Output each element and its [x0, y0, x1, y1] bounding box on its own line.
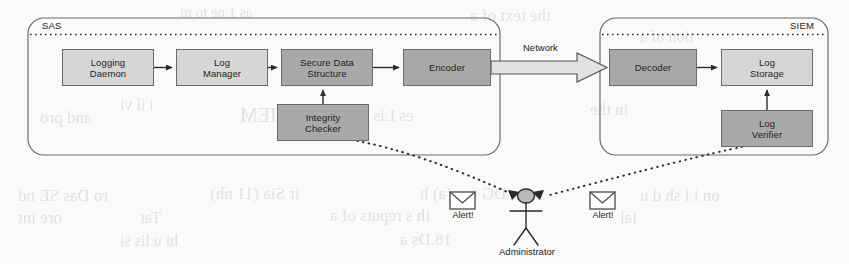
node-decoder-label: Decoder	[633, 62, 674, 73]
administrator-head	[518, 189, 535, 203]
node-log-verifier-label: LogVerifier	[750, 118, 784, 140]
diagram-page: the text of aas 1 ne to nition of ai il …	[0, 0, 849, 264]
node-logging-daemon[interactable]: LoggingDaemon	[62, 49, 154, 86]
node-log-storage-label: LogStorage	[748, 57, 786, 79]
node-integrity-checker[interactable]: IntegrityChecker	[277, 104, 369, 141]
node-decoder[interactable]: Decoder	[609, 49, 697, 86]
node-log-storage[interactable]: LogStorage	[721, 49, 813, 86]
node-encoder-label: Encoder	[427, 62, 467, 73]
zone-label-siem: SIEM	[790, 20, 814, 31]
node-secure-data-structure-label: Secure DataStructure	[298, 57, 356, 79]
node-secure-data-structure[interactable]: Secure DataStructure	[281, 49, 373, 86]
alert-label-left: Alert!	[443, 210, 483, 220]
edge-log-verifier-to-administrator	[546, 147, 742, 196]
administrator-leg-left	[514, 228, 526, 245]
node-integrity-checker-label: IntegrityChecker	[303, 112, 343, 134]
node-log-verifier[interactable]: LogVerifier	[721, 110, 813, 147]
alert-envelope-right	[590, 192, 615, 209]
zone-sas	[28, 18, 500, 155]
administrator-leg-right	[526, 228, 538, 245]
node-log-manager[interactable]: LogManager	[176, 49, 268, 86]
alert-envelope-left	[450, 192, 475, 209]
administrator-figure	[508, 189, 544, 245]
edge-label-network: Network	[523, 42, 558, 53]
administrator-label: Administrator	[492, 246, 562, 257]
edge-integrity-checker-to-administrator	[352, 140, 516, 196]
node-logging-daemon-label: LoggingDaemon	[88, 57, 129, 79]
network-block-arrow	[491, 53, 607, 82]
zone-label-sas: SAS	[42, 20, 62, 31]
node-encoder[interactable]: Encoder	[403, 49, 491, 86]
alert-label-right: Alert!	[583, 210, 623, 220]
node-log-manager-label: LogManager	[201, 57, 243, 79]
